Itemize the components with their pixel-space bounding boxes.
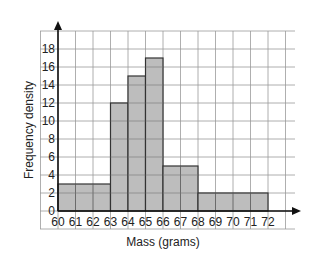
- x-tick-label: 69: [209, 215, 223, 229]
- y-tick-labels: 024681012141618: [42, 42, 56, 218]
- y-tick-label: 10: [42, 114, 56, 128]
- x-tick-label: 61: [69, 215, 83, 229]
- y-axis-label: Frequency density: [22, 81, 36, 179]
- x-tick-label: 67: [174, 215, 188, 229]
- x-axis-arrow-icon: [292, 207, 301, 215]
- y-tick-label: 4: [48, 168, 55, 182]
- histogram-bar: [58, 184, 111, 211]
- x-tick-label: 65: [139, 215, 153, 229]
- x-tick-label: 71: [244, 215, 258, 229]
- histogram-chart: 024681012141618 606162636465666768697071…: [0, 0, 316, 266]
- y-tick-label: 12: [42, 96, 56, 110]
- histogram-bar: [146, 58, 164, 211]
- y-tick-label: 16: [42, 60, 56, 74]
- y-tick-label: 2: [48, 186, 55, 200]
- y-axis-arrow-icon: [54, 21, 62, 30]
- x-tick-label: 68: [191, 215, 205, 229]
- histogram-bar: [128, 76, 146, 211]
- y-tick-label: 6: [48, 150, 55, 164]
- y-tick-label: 18: [42, 42, 56, 56]
- x-tick-label: 72: [261, 215, 275, 229]
- histogram-bars: [58, 58, 268, 211]
- x-tick-label: 66: [156, 215, 170, 229]
- x-tick-label: 64: [121, 215, 135, 229]
- x-axis-label: Mass (grams): [126, 235, 199, 249]
- x-tick-label: 62: [86, 215, 100, 229]
- x-tick-label: 63: [104, 215, 118, 229]
- x-tick-label: 60: [51, 215, 65, 229]
- y-tick-label: 14: [42, 78, 56, 92]
- x-tick-labels: 60616263646566676869707172: [51, 215, 275, 229]
- x-tick-label: 70: [226, 215, 240, 229]
- y-tick-label: 8: [48, 132, 55, 146]
